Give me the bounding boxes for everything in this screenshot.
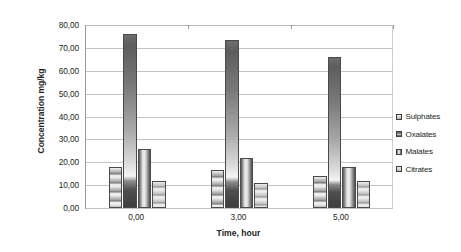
- bar-group: [86, 25, 188, 208]
- y-axis-tick-label: 0,00: [37, 204, 79, 212]
- legend-swatch-icon: [396, 114, 402, 120]
- legend-label: Citrates: [406, 165, 433, 174]
- y-axis-tick-label: 10,00: [37, 181, 79, 189]
- bar-malates-0[interactable]: [138, 149, 152, 208]
- x-axis-tick-label: 3,00: [187, 212, 289, 226]
- bar-citrates-0[interactable]: [152, 181, 166, 208]
- x-axis-tick: [393, 25, 394, 29]
- x-axis-tick-label: 5,00: [290, 212, 392, 226]
- bar-chart: Concentration mg/kg 80,0070,0060,0050,00…: [0, 0, 461, 252]
- legend-swatch-icon: [396, 166, 402, 172]
- y-axis-tick-label: 80,00: [37, 21, 79, 29]
- legend-item-oxalates[interactable]: Oxalates: [396, 126, 461, 144]
- legend-label: Malates: [406, 147, 433, 156]
- gridline: [86, 208, 393, 209]
- bar-citrates-2[interactable]: [357, 181, 371, 208]
- legend-label: Sulphates: [406, 112, 441, 121]
- y-axis-tick-label: 40,00: [37, 113, 79, 121]
- legend: SulphatesOxalatesMalatesCitrates: [396, 108, 461, 178]
- bar-malates-2[interactable]: [342, 167, 356, 208]
- y-axis-tick-labels: 80,0070,0060,0050,0040,0030,0020,0010,00…: [34, 25, 79, 208]
- bar-oxalates-0[interactable]: [123, 34, 137, 208]
- legend-swatch-icon: [396, 149, 402, 155]
- bar-group: [291, 25, 393, 208]
- bar-sulphates-2[interactable]: [313, 176, 327, 208]
- y-axis-title-wrapper: Concentration mg/kg: [18, 40, 32, 190]
- plot-area: [85, 25, 393, 209]
- y-axis-tick-label: 60,00: [37, 67, 79, 75]
- y-axis-tick-label: 70,00: [37, 44, 79, 52]
- x-axis-title: Time, hour: [85, 228, 392, 238]
- y-axis-tick-label: 20,00: [37, 158, 79, 166]
- legend-swatch-icon: [396, 131, 402, 137]
- x-axis-tick-labels: 0,003,005,00: [85, 212, 392, 226]
- bar-malates-1[interactable]: [240, 158, 254, 208]
- legend-item-malates[interactable]: Malates: [396, 143, 461, 161]
- x-axis-tick-label: 0,00: [85, 212, 187, 226]
- y-axis-tick-label: 30,00: [37, 135, 79, 143]
- bar-group: [188, 25, 290, 208]
- bar-oxalates-2[interactable]: [328, 57, 342, 208]
- x-axis-tick: [291, 25, 292, 29]
- bar-citrates-1[interactable]: [254, 183, 268, 208]
- y-axis-tick-label: 50,00: [37, 90, 79, 98]
- legend-item-sulphates[interactable]: Sulphates: [396, 108, 461, 126]
- legend-label: Oxalates: [406, 130, 437, 139]
- bar-sulphates-0[interactable]: [109, 167, 123, 208]
- bar-oxalates-1[interactable]: [225, 40, 239, 208]
- legend-item-citrates[interactable]: Citrates: [396, 161, 461, 179]
- bar-sulphates-1[interactable]: [211, 170, 225, 208]
- x-axis-tick: [188, 25, 189, 29]
